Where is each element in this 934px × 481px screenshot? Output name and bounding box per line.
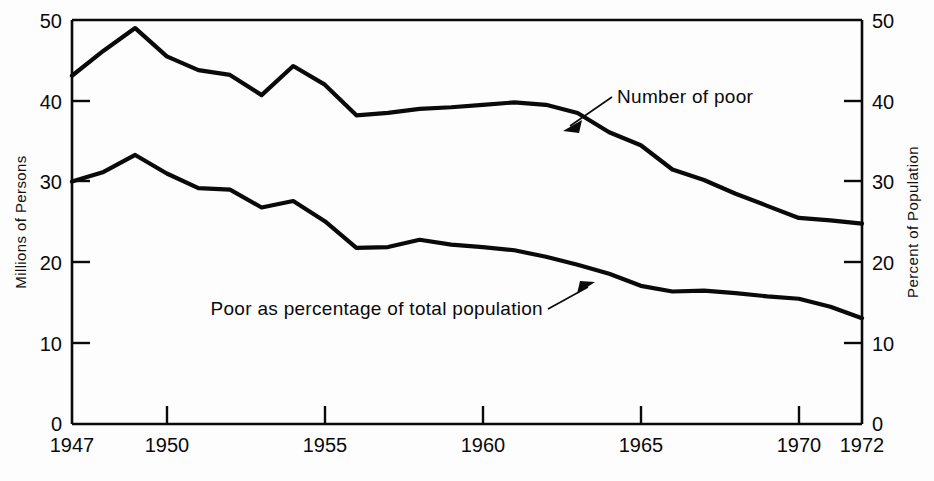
annotation-number-of-poor: Number of poor (563, 86, 754, 133)
x-tick-label-1955: 1955 (303, 434, 348, 456)
annotation-label-poor-percentage: Poor as percentage of total population (210, 298, 543, 319)
arrow-head-icon-lower (577, 281, 595, 294)
chart-figure: 0 10 20 30 40 50 0 10 20 30 40 50 1947 1… (0, 0, 934, 481)
y-axis-right-title: Percent of Population (904, 146, 921, 298)
y2-tick-label-30: 30 (872, 171, 894, 193)
y-axis-left-ticks (72, 101, 90, 343)
y-axis-left-tick-labels: 0 10 20 30 40 50 (40, 10, 62, 435)
chart-canvas: 0 10 20 30 40 50 0 10 20 30 40 50 1947 1… (0, 0, 934, 481)
x-tick-label-1947: 1947 (50, 434, 95, 456)
x-tick-label-1970: 1970 (777, 434, 822, 456)
plot-frame (72, 20, 862, 424)
y2-tick-label-0: 0 (872, 413, 883, 435)
annotation-label-number-of-poor: Number of poor (617, 86, 754, 107)
x-tick-label-1960: 1960 (461, 434, 506, 456)
y-tick-label-0: 0 (51, 413, 62, 435)
annotation-poor-percentage: Poor as percentage of total population (210, 281, 595, 319)
y2-tick-label-40: 40 (872, 91, 894, 113)
y2-tick-label-10: 10 (872, 333, 894, 355)
y-tick-label-20: 20 (40, 252, 62, 274)
x-axis-tick-labels: 1947 1950 1955 1960 1965 1970 1972 (50, 434, 885, 456)
series-line-poor-percentage (72, 155, 862, 318)
y-tick-label-40: 40 (40, 91, 62, 113)
y-tick-label-30: 30 (40, 171, 62, 193)
series-line-number-of-poor (72, 28, 862, 224)
x-tick-label-1965: 1965 (619, 434, 664, 456)
arrow-head-icon-upper (563, 120, 582, 133)
x-tick-label-1950: 1950 (145, 434, 190, 456)
y2-tick-label-20: 20 (872, 252, 894, 274)
y-tick-label-10: 10 (40, 333, 62, 355)
y-axis-right-tick-labels: 0 10 20 30 40 50 (872, 10, 894, 435)
x-tick-label-1972: 1972 (840, 434, 885, 456)
y2-tick-label-50: 50 (872, 10, 894, 32)
y-tick-label-50: 50 (40, 10, 62, 32)
y-axis-left-title: Millions of Persons (12, 155, 29, 288)
data-series-group (72, 28, 862, 318)
x-axis-ticks (167, 406, 799, 424)
